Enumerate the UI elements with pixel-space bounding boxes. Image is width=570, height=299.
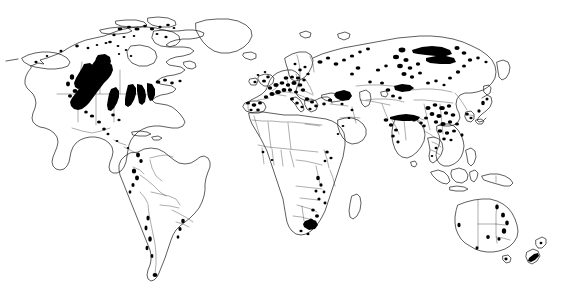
occurrence-patch [303,66,306,69]
occurrence-patch [356,66,361,70]
occurrence-patch [448,77,452,80]
occurrence-patch [246,101,250,104]
occurrence-patch [125,49,128,51]
occurrence-patch [425,106,430,110]
occurrence-patch [469,117,472,120]
occurrence-patch [461,133,464,137]
occurrence-patch [384,118,389,122]
occurrence-patch [456,70,460,73]
occurrence-patch [153,273,158,277]
occurrence-patch [294,63,297,65]
occurrence-patch [268,86,272,89]
occurrence-patch [178,80,181,83]
occurrence-patch [391,135,395,138]
occurrence-patch [290,76,294,79]
occurrence-patch [131,183,134,187]
occurrence-patch [495,205,499,210]
occurrence-patch [286,83,290,86]
occurrence-patch [454,46,459,50]
occurrence-patch [264,71,267,73]
occurrence-patch [342,125,345,127]
occurrence-patch [319,183,322,187]
occurrence-patch [396,141,399,144]
occurrence-patch [139,159,142,163]
occurrence-patch [326,56,330,59]
occurrence-patch [163,79,167,82]
occurrence-patch [34,61,37,64]
occurrence-patch [46,55,49,57]
occurrence-patch [306,73,309,76]
occurrence-patch [302,79,306,82]
occurrence-patch [358,51,362,54]
occurrence-patch [288,88,292,91]
occurrence-patch [323,191,326,194]
occurrence-patch [133,35,136,37]
occurrence-patch [132,168,136,173]
occurrence-patch [502,228,506,234]
occurrence-patch [129,190,132,194]
occurrence-patch [305,97,309,100]
occurrence-patch [384,65,388,68]
occurrence-patch [424,116,428,119]
occurrence-patch [462,51,467,55]
map-background [0,0,570,299]
occurrence-patch [380,82,384,85]
occurrence-patch [389,123,393,126]
occurrence-patch [262,79,266,82]
occurrence-patch [108,41,112,44]
occurrence-patch [123,36,126,38]
occurrence-patch [90,114,94,117]
occurrence-patch [316,176,320,180]
occurrence-patch [476,246,479,250]
occurrence-patch [435,147,438,149]
occurrence-patch [334,62,339,65]
occurrence-patch [291,81,296,85]
occurrence-patch [436,114,441,118]
occurrence-patch [68,94,72,97]
occurrence-patch [315,214,319,217]
occurrence-patch [505,221,509,226]
occurrence-patch [273,83,278,87]
occurrence-patch [314,105,318,108]
occurrence-patch [282,88,287,92]
occurrence-patch [156,33,159,35]
occurrence-patch [497,237,500,241]
occurrence-patch [102,128,106,131]
occurrence-patch [262,151,265,153]
occurrence-patch [130,55,133,57]
occurrence-patch [178,227,181,231]
occurrence-patch [439,106,445,110]
occurrence-patch [351,109,354,111]
occurrence-patch [135,176,139,181]
occurrence-patch [118,53,120,55]
occurrence-patch [66,82,70,87]
occurrence-patch [145,226,148,231]
occurrence-patch [329,157,332,160]
occurrence-patch [442,138,446,141]
occurrence-patch [315,189,318,192]
occurrence-patch [298,69,302,72]
occurrence-patch [324,202,327,205]
occurrence-patch [280,81,285,85]
occurrence-patch [150,28,154,31]
occurrence-patch [258,102,262,105]
occurrence-patch [322,103,326,106]
occurrence-patch [264,95,268,98]
occurrence-patch [481,101,485,105]
occurrence-patch [269,92,274,96]
occurrence-patch [151,254,154,258]
occurrence-patch [97,120,101,123]
occurrence-patch [401,72,406,76]
occurrence-patch [398,97,402,100]
occurrence-patch [447,104,451,107]
occurrence-patch [431,155,434,157]
occurrence-patch [317,60,322,64]
occurrence-patch [328,98,332,101]
occurrence-patch [107,133,110,135]
occurrence-patch [397,64,403,68]
occurrence-patch [307,233,310,235]
occurrence-patch [82,102,86,105]
occurrence-patch [271,159,274,161]
occurrence-patch [253,81,256,84]
occurrence-patch [308,108,311,111]
